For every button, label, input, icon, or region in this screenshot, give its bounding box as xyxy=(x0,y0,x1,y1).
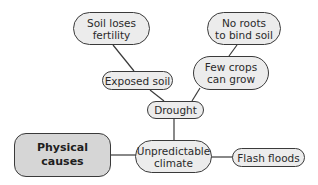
node-few-crops-can-grow: Few crops can grow xyxy=(193,56,269,90)
node-physical-causes: Physical causes xyxy=(14,133,111,177)
edge-fertility-exposed xyxy=(113,45,134,71)
node-exposed-soil: Exposed soil xyxy=(102,71,173,90)
edge-noroots-fewcrops xyxy=(229,45,237,56)
node-unpredictable-climate: Unpredictable climate xyxy=(135,140,212,173)
node-soil-loses-fertility: Soil loses fertility xyxy=(73,12,150,45)
edge-fewcrops-drought xyxy=(192,88,200,101)
mind-map-diagram: Soil loses fertility No roots to bind so… xyxy=(0,0,318,185)
node-flash-floods: Flash floods xyxy=(232,148,305,167)
node-drought: Drought xyxy=(147,101,204,119)
edge-exposed-drought xyxy=(150,90,164,101)
node-no-roots-to-bind-soil: No roots to bind soil xyxy=(207,12,281,45)
